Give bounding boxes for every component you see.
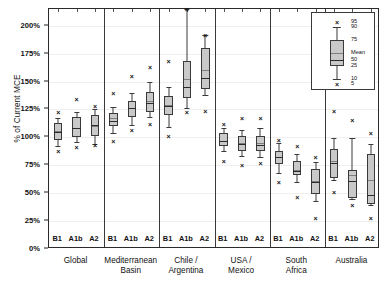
y-tick-label: 0% [6, 244, 40, 253]
legend-mean-line [331, 53, 343, 54]
median-line [367, 195, 375, 196]
boxplot-chile-argentina-a1b[interactable]: ×× [183, 9, 191, 249]
legend-label-mean: Mean [351, 50, 365, 56]
x-tick-label-b1: B1 [163, 234, 172, 243]
median-line [201, 78, 209, 79]
legend-outlier-marker-p95: × [335, 19, 339, 26]
median-line [146, 103, 154, 104]
upper-whisker [242, 130, 243, 137]
lower-whisker-cap [331, 180, 336, 181]
upper-whisker-cap [331, 138, 336, 139]
outlier-marker-p95: × [314, 154, 318, 161]
boxplot-global-b1[interactable]: ×× [54, 9, 62, 249]
lower-whisker [315, 194, 316, 201]
upper-whisker-cap [148, 82, 153, 83]
outlier-marker-p5: × [369, 214, 373, 221]
outlier-marker-p5: × [332, 189, 336, 196]
lower-whisker [186, 98, 187, 108]
y-tick-label: 50% [6, 188, 40, 197]
lower-whisker-cap [276, 173, 281, 174]
boxplot-global-a1b[interactable]: ×× [72, 9, 80, 249]
outlier-marker-p95: × [258, 115, 262, 122]
lower-whisker-cap [148, 117, 153, 118]
boxplot-usa-mexico-a2[interactable]: ×× [256, 9, 264, 249]
x-tick-label-a2: A2 [310, 234, 319, 243]
boxplot-south-africa-b1[interactable]: ×× [275, 9, 283, 249]
lower-whisker-cap [166, 127, 171, 128]
legend-lower-whisker [337, 66, 338, 79]
upper-whisker-cap [166, 87, 171, 88]
outlier-marker-p5: × [222, 157, 226, 164]
panel-separator [270, 9, 271, 247]
upper-whisker [168, 87, 169, 96]
outlier-marker-p5: × [148, 120, 152, 127]
median-line [54, 132, 62, 133]
lower-whisker [58, 140, 59, 147]
upper-whisker [150, 82, 151, 92]
chart-legend: ××959075Mean5025105 [311, 12, 375, 90]
upper-whisker-cap [276, 143, 281, 144]
mean-line [331, 161, 337, 162]
outlier-marker-p95: × [75, 96, 79, 103]
outlier-marker-p95: × [56, 108, 60, 115]
outlier-marker-p5: × [350, 202, 354, 209]
boxplot-mediterranean-basin-a2[interactable]: ×× [146, 9, 154, 249]
boxplot-global-a2[interactable]: ×× [91, 9, 99, 249]
upper-whisker-cap [295, 154, 300, 155]
boxplot-mediterranean-basin-b1[interactable]: ×× [109, 9, 117, 249]
median-line [109, 121, 117, 122]
y-tick-label: 125% [6, 104, 40, 113]
mean-line [92, 126, 98, 127]
y-tick-label: 75% [6, 160, 40, 169]
upper-whisker-cap [221, 128, 226, 129]
lower-whisker-cap [203, 95, 208, 96]
upper-whisker [131, 93, 132, 101]
boxplot-usa-mexico-a1b[interactable]: ×× [238, 9, 246, 249]
median-line [238, 144, 246, 145]
boxplot-mediterranean-basin-a1b[interactable]: ×× [128, 9, 136, 249]
y-tick-label: 25% [6, 216, 40, 225]
median-line [183, 87, 191, 88]
median-line [256, 145, 264, 146]
y-tick-label: 100% [6, 132, 40, 141]
median-line [128, 108, 136, 109]
outlier-marker-p5: × [240, 162, 244, 169]
x-tick-label-b1: B1 [108, 234, 117, 243]
lower-whisker [260, 151, 261, 158]
outlier-marker-p5: × [314, 214, 318, 221]
legend-outlier-marker-p5: × [335, 81, 339, 88]
outlier-marker-p5: × [56, 147, 60, 154]
lower-whisker [278, 164, 279, 173]
x-tick-label-a1b: A1b [344, 234, 358, 243]
median-line [293, 171, 301, 172]
group-label-australia: Australia [314, 256, 383, 266]
outlier-marker-p5: × [295, 193, 299, 200]
median-line [348, 181, 356, 182]
outlier-marker-p95: × [203, 31, 207, 38]
x-tick-label-a2: A2 [365, 234, 374, 243]
boxplot-chile-argentina-a2[interactable]: ×× [201, 9, 209, 249]
outlier-marker-p5: × [130, 126, 134, 133]
outlier-marker-p5: × [185, 108, 189, 115]
iqr-box [293, 161, 301, 176]
mean-line [257, 143, 263, 144]
median-line [330, 163, 338, 164]
mean-line [202, 70, 208, 71]
outlier-marker-p95: × [350, 116, 354, 123]
boxplot-chile-argentina-b1[interactable]: ×× [164, 9, 172, 249]
x-tick-label-a1b: A1b [234, 234, 248, 243]
boxplot-south-africa-a1b[interactable]: ×× [293, 9, 301, 249]
mean-line [349, 175, 355, 176]
lower-whisker-cap [221, 151, 226, 152]
mean-line [184, 79, 190, 80]
x-tick-label-b1: B1 [218, 234, 227, 243]
x-tick-label-b1: B1 [273, 234, 282, 243]
outlier-marker-p95: × [240, 115, 244, 122]
boxplot-usa-mexico-b1[interactable]: ×× [219, 9, 227, 249]
upper-whisker-cap [313, 162, 318, 163]
outlier-marker-p5: × [277, 179, 281, 186]
lower-whisker-cap [368, 205, 373, 206]
upper-whisker [352, 138, 353, 169]
upper-whisker [260, 128, 261, 136]
upper-whisker-cap [74, 112, 79, 113]
